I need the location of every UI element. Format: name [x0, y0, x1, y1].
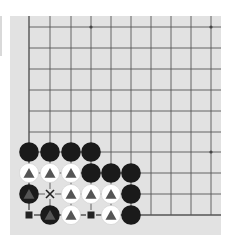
black-stone[interactable] [19, 142, 39, 162]
board-grid[interactable] [0, 0, 229, 240]
black-stone[interactable] [121, 205, 141, 225]
black-stone[interactable] [40, 142, 60, 162]
star-point [209, 150, 212, 153]
black-stone[interactable] [121, 163, 141, 183]
black-stone[interactable] [61, 142, 81, 162]
square-mark-icon [26, 212, 33, 219]
black-stone[interactable] [81, 163, 101, 183]
star-point [209, 25, 212, 28]
black-stone[interactable] [101, 163, 121, 183]
black-stone[interactable] [81, 142, 101, 162]
black-stone[interactable] [121, 184, 141, 204]
star-point [89, 25, 92, 28]
square-mark-icon [88, 212, 95, 219]
